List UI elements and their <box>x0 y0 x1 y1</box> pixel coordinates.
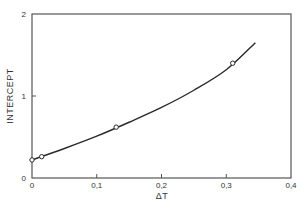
data-point-marker <box>30 158 34 162</box>
data-point-marker <box>114 125 118 129</box>
x-tick-label: 0,4 <box>285 181 297 190</box>
y-tick-label: 1 <box>22 92 27 101</box>
x-axis-title: ΔT <box>156 191 169 201</box>
x-tick-label: 0,2 <box>156 181 168 190</box>
fitted-curve <box>32 43 255 160</box>
y-tick-label: 0 <box>22 174 27 183</box>
y-axis-title: INTERCEPT <box>5 68 15 124</box>
data-point-markers <box>30 61 235 162</box>
y-tick-label: 2 <box>22 10 27 19</box>
x-tick-label: 0 <box>30 181 35 190</box>
y-axis-ticks: 012 <box>22 10 36 183</box>
data-point-marker <box>40 154 44 158</box>
x-tick-label: 0,1 <box>91 181 103 190</box>
chart: 00,10,20,30,4 012 ΔT INTERCEPT <box>0 0 308 211</box>
x-tick-label: 0,3 <box>221 181 233 190</box>
plot-frame <box>32 14 291 178</box>
data-point-marker <box>231 61 235 65</box>
x-axis-ticks: 00,10,20,30,4 <box>30 174 297 190</box>
